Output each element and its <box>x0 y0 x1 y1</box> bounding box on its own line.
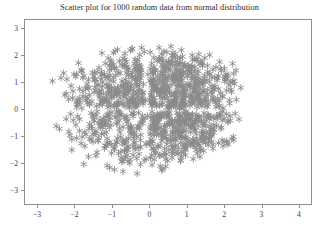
y-tick-mark <box>21 190 24 191</box>
x-tick-mark <box>37 205 38 208</box>
x-tick-mark <box>299 205 300 208</box>
y-tick-label: −2 <box>2 159 18 168</box>
x-tick-label: 0 <box>147 210 151 219</box>
scatter-plot-figure: Scatter plot for 1000 random data from n… <box>0 0 319 236</box>
x-tick-label: −1 <box>108 210 116 219</box>
y-tick-label: 1 <box>2 78 18 87</box>
y-tick-label: 0 <box>2 105 18 114</box>
x-tick-label: 4 <box>297 210 301 219</box>
x-tick-mark <box>224 205 225 208</box>
x-tick-label: 1 <box>185 210 189 219</box>
y-tick-mark <box>21 28 24 29</box>
x-tick-mark <box>187 205 188 208</box>
y-tick-label: 2 <box>2 51 18 60</box>
plot-area <box>24 19 312 205</box>
scatter-points-layer <box>25 20 311 204</box>
y-tick-mark <box>21 55 24 56</box>
y-tick-label: 3 <box>2 24 18 33</box>
x-tick-label: −3 <box>33 210 41 219</box>
x-tick-mark <box>149 205 150 208</box>
y-tick-mark <box>21 82 24 83</box>
chart-title: Scatter plot for 1000 random data from n… <box>0 2 319 13</box>
y-tick-mark <box>21 136 24 137</box>
y-tick-label: −1 <box>2 132 18 141</box>
x-tick-label: 3 <box>260 210 264 219</box>
x-tick-mark <box>74 205 75 208</box>
y-tick-mark <box>21 109 24 110</box>
y-tick-mark <box>21 163 24 164</box>
x-tick-mark <box>262 205 263 208</box>
x-tick-mark <box>112 205 113 208</box>
x-tick-label: −2 <box>70 210 78 219</box>
y-tick-label: −3 <box>2 186 18 195</box>
x-tick-label: 2 <box>222 210 226 219</box>
